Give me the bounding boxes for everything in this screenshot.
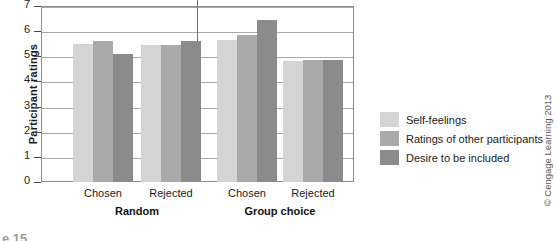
y-axis-tick-mark — [34, 107, 41, 108]
legend-swatch-icon — [380, 131, 399, 146]
bar — [141, 45, 161, 182]
bar — [113, 54, 133, 182]
bar — [181, 41, 201, 182]
bar-series-layer — [41, 6, 354, 182]
y-axis-tick-mark — [34, 132, 41, 133]
bar — [257, 20, 277, 182]
x-axis-tick-label: Rejected — [273, 187, 353, 199]
y-axis-tick-label: 2 — [0, 124, 30, 136]
y-axis-tick-label: 5 — [0, 48, 30, 60]
legend-swatch-icon — [380, 112, 399, 127]
x-axis-tick-label: Rejected — [131, 187, 211, 199]
legend-item-label: Desire to be included — [406, 152, 509, 164]
y-axis-tick-label: 1 — [0, 149, 30, 161]
y-axis-tick-label: 3 — [0, 99, 30, 111]
legend-item: Ratings of other participants — [380, 129, 543, 148]
y-axis-tick-mark — [34, 157, 41, 158]
y-axis-tick-mark — [34, 31, 41, 32]
legend-item-label: Ratings of other participants — [406, 133, 543, 145]
y-axis-tick-label: 0 — [0, 174, 30, 186]
y-axis-tick-label: 4 — [0, 73, 30, 85]
bar — [323, 60, 343, 182]
bar — [283, 61, 303, 182]
bar — [93, 41, 113, 182]
copyright-credit: © Cengage Learning 2013 — [542, 81, 553, 221]
figure-caption-cutoff: e 15 — [2, 231, 27, 241]
y-axis-tick-mark — [34, 81, 41, 82]
legend-item: Self-feelings — [380, 110, 543, 129]
x-axis-group-label: Random — [77, 205, 197, 217]
legend-swatch-icon — [380, 150, 399, 165]
y-axis-tick-mark — [34, 182, 41, 183]
y-axis-tick-label: 7 — [0, 0, 30, 10]
y-axis-tick-label: 6 — [0, 23, 30, 35]
y-axis-tick-mark — [34, 56, 41, 57]
x-axis-group-label: Group choice — [220, 205, 340, 217]
bar — [161, 45, 181, 182]
bar-chart-figure: Participant ratings 01234567 ChosenRejec… — [0, 0, 557, 241]
bar — [237, 35, 257, 182]
legend-item-label: Self-feelings — [406, 114, 467, 126]
chart-legend: Self-feelingsRatings of other participan… — [380, 110, 543, 167]
legend-item: Desire to be included — [380, 148, 543, 167]
y-axis-tick-mark — [34, 6, 41, 7]
bar — [303, 60, 323, 182]
bar — [217, 40, 237, 182]
bar — [73, 44, 93, 182]
